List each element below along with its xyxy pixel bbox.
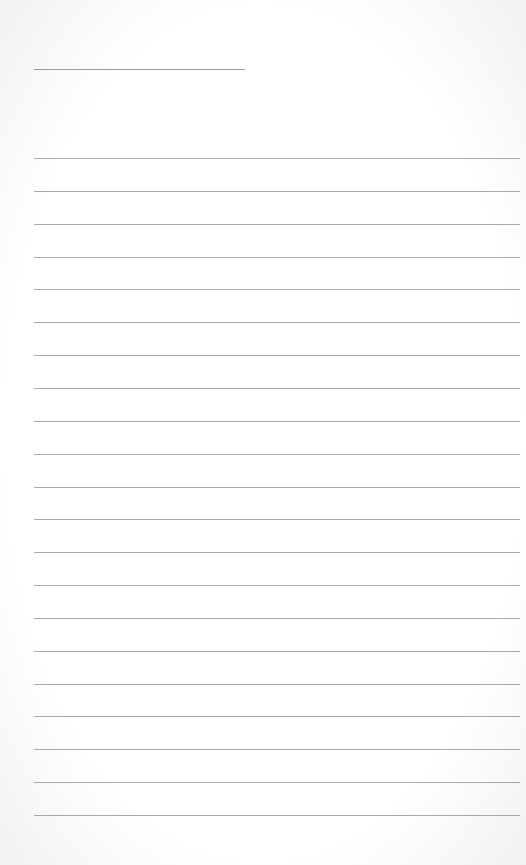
ruled-line	[34, 224, 520, 225]
ruled-line	[34, 322, 520, 323]
ruled-line	[34, 749, 520, 750]
lined-paper-page	[0, 0, 526, 865]
ruled-line	[34, 421, 520, 422]
ruled-line	[34, 782, 520, 783]
ruled-line	[34, 158, 520, 159]
ruled-line	[34, 454, 520, 455]
ruled-line	[34, 289, 520, 290]
ruled-line	[34, 519, 520, 520]
ruled-line	[34, 815, 520, 816]
ruled-line	[34, 257, 520, 258]
ruled-line	[34, 618, 520, 619]
ruled-line	[34, 191, 520, 192]
ruled-line	[34, 487, 520, 488]
ruled-line	[34, 716, 520, 717]
ruled-line	[34, 552, 520, 553]
ruled-line	[34, 355, 520, 356]
ruled-line	[34, 388, 520, 389]
ruled-line	[34, 684, 520, 685]
ruled-line	[34, 651, 520, 652]
title-line	[34, 69, 245, 70]
ruled-line	[34, 585, 520, 586]
